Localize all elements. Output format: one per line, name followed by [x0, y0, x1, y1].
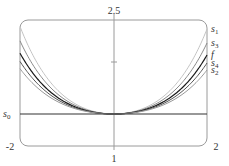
x-right-tick-label: 2 [214, 141, 219, 152]
x-center-tick-label: 1 [112, 153, 117, 164]
series-labels: s1s3fs4s2s0 [3, 23, 219, 121]
series-s1-label: s1 [211, 23, 219, 36]
x-left-tick-label: -2 [6, 141, 14, 152]
y-top-tick-label: 2.5 [108, 5, 121, 16]
taylor-approximation-chart: 2.5 -2 1 2 s1s3fs4s2s0 [0, 0, 229, 166]
series-s0-label: s0 [3, 108, 11, 121]
